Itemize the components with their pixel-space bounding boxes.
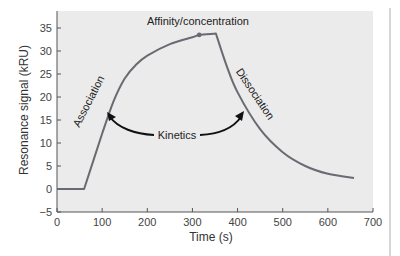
- y-tick-label: 25: [40, 68, 52, 80]
- plot-area: [57, 11, 373, 212]
- y-tick-label: 35: [40, 22, 52, 34]
- y-tick-label: 30: [40, 45, 52, 57]
- y-tick-label: 5: [46, 160, 52, 172]
- x-axis-title: Time (s): [189, 230, 233, 244]
- x-tick-label: 100: [93, 216, 111, 228]
- y-tick-label: 15: [40, 114, 52, 126]
- y-tick-label: 0: [46, 183, 52, 195]
- affinity-marker: [197, 33, 202, 38]
- x-tick-label: 300: [183, 216, 201, 228]
- kinetics-label: Kinetics: [158, 129, 197, 141]
- x-tick-label: 400: [228, 216, 246, 228]
- x-tick-label: 500: [274, 216, 292, 228]
- y-tick-label: 10: [40, 137, 52, 149]
- y-tick-label: 20: [40, 91, 52, 103]
- affinity-label: Affinity/concentration: [147, 15, 249, 27]
- x-tick-label: 0: [54, 216, 60, 228]
- x-tick-label: 600: [319, 216, 337, 228]
- y-axis-title: Resonance signal (kRU): [17, 45, 31, 175]
- x-tick-label: 200: [138, 216, 156, 228]
- sensorgram-chart: −505101520253035 0100200300400500600700 …: [0, 0, 400, 256]
- y-tick-label: −5: [39, 206, 52, 218]
- x-tick-label: 700: [364, 216, 382, 228]
